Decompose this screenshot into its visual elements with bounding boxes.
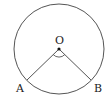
label-o: O [55,34,64,47]
radius-oa [27,49,59,80]
label-a: A [15,82,25,95]
circle-diagram: O A B [0,0,111,97]
center-point [57,47,60,50]
label-b: B [94,82,102,95]
radius-ob [59,49,91,80]
angle-arc [53,55,65,57]
